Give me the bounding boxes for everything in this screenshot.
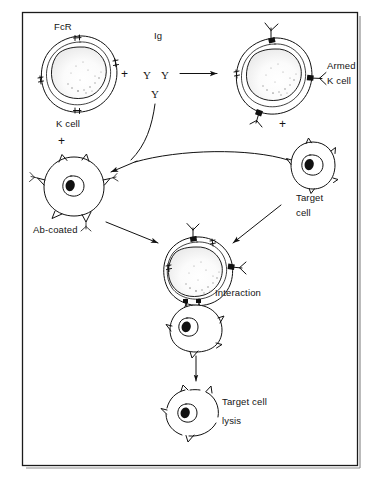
target-cell-label-line1: Target (296, 192, 324, 203)
plus-ig: + (121, 67, 128, 81)
bound-antibody-top (265, 23, 278, 43)
k-cell-label: K cell (56, 118, 80, 129)
lysed-target-cell: Target cell lysis (161, 385, 267, 442)
ig-label: Ig (154, 30, 162, 41)
converged-arrow-tip (111, 161, 137, 172)
ab-coated-cell: Ab-coated (30, 154, 119, 235)
k-cell: FcR K cell (38, 21, 119, 129)
target-cell-label-line2: cell (296, 207, 311, 218)
adcc-diagram-canvas: FcR K cell + Ig + Y Y Y (0, 0, 378, 485)
lysis-label-line1: Target cell (222, 396, 267, 407)
lysis-label-line2: lysis (222, 415, 241, 426)
interaction-target-cell (166, 305, 224, 358)
interaction-bound-antibody-right (228, 262, 246, 274)
antibody-y-1: Y (143, 69, 151, 81)
ig-to-ab-coated-curve (131, 104, 155, 160)
antibody-y-3: Y (151, 88, 159, 100)
interaction-label: Interaction (215, 287, 261, 298)
armed-k-cell: Armed K cell (234, 23, 356, 127)
bound-antibody-bottom (250, 109, 263, 127)
target-to-ab-coated-curve (135, 152, 288, 162)
adcc-figure: FcR K cell + Ig + Y Y Y (0, 0, 378, 485)
interaction-complex: Interaction (164, 224, 261, 359)
armed-label: Armed (327, 60, 356, 71)
armed-fc-receptor-bare (234, 70, 240, 78)
antibody-y-2: Y (161, 69, 169, 81)
ab-coated-to-interaction-arrow (106, 222, 158, 243)
plus-armed: + (279, 117, 286, 131)
armed-k-cell-label: K cell (327, 75, 351, 86)
target-to-interaction-arrow (233, 205, 281, 243)
target-cell: Target cell (287, 138, 339, 218)
interaction-bound-antibody-top (187, 224, 199, 242)
ab-coated-label: Ab-coated (33, 224, 78, 235)
immunoglobulin-group: Ig + Y Y Y (121, 30, 169, 100)
bound-antibody-right (307, 73, 326, 85)
plus-k-cell: + (58, 134, 65, 148)
fcr-label: FcR (54, 21, 72, 32)
